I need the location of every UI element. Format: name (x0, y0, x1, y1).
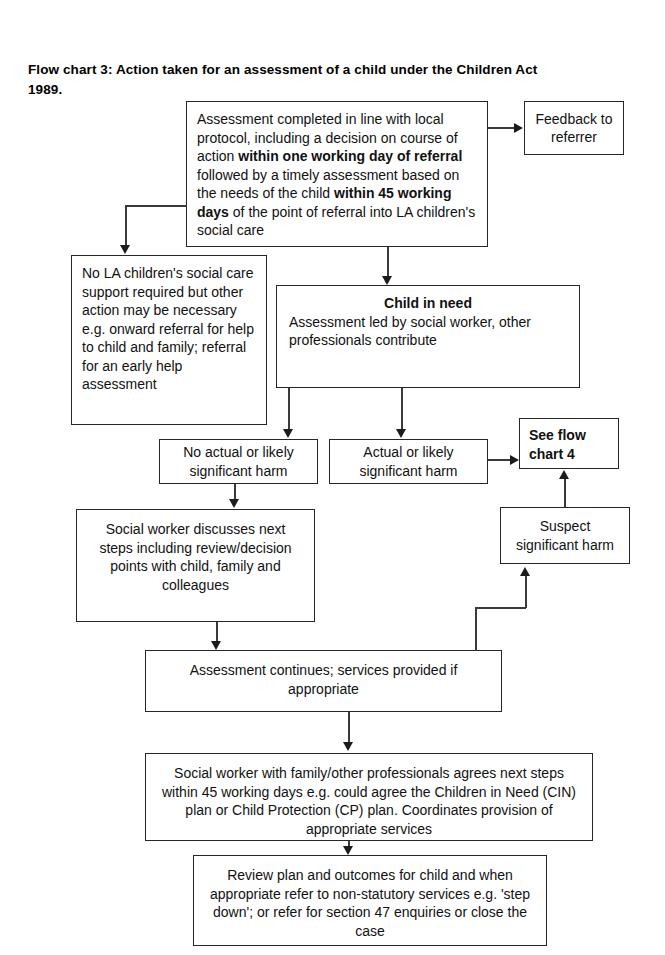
node-suspect-harm-text: Suspect significant harm (509, 517, 621, 554)
connector-assessment-to-cin-arrowhead (382, 276, 392, 285)
connector-cin-to-no-actual-harm-arrowhead (283, 429, 293, 438)
node-child-in-need-text: Assessment led by social worker, other p… (289, 313, 567, 350)
connector-suspect-to-flowchart4-arrowhead (559, 470, 569, 479)
connector-assessment-to-feedback-arrowhead (514, 123, 523, 133)
node-assessment-completed[interactable]: Assessment completed in line with local … (186, 101, 488, 247)
node-no-la-support[interactable]: No LA children's social care support req… (71, 255, 267, 425)
node-no-actual-harm[interactable]: No actual or likely significant harm (159, 439, 318, 484)
node-child-in-need-heading: Child in need (289, 294, 567, 313)
node-sw-discusses-text: Social worker discusses next steps inclu… (89, 520, 302, 594)
connector-sw-discusses-to-assessment-continues-vertical (216, 622, 218, 642)
node-assessment-continues[interactable]: Assessment continues; services provided … (145, 650, 502, 712)
node-see-flow-chart-4-text: See flow chart 4 (529, 426, 609, 463)
connector-actual-harm-to-flowchart4-line (488, 459, 511, 461)
node-sw-discusses[interactable]: Social worker discusses next steps inclu… (76, 509, 315, 622)
node-actual-harm-text: Actual or likely significant harm (338, 443, 479, 480)
connector-assessment-to-nola-arrowhead (120, 245, 130, 254)
page-title-line1: Flow chart 3: Action taken for an assess… (28, 62, 537, 77)
connector-cin-to-no-actual-harm-vertical (288, 388, 290, 430)
connector-assessment-to-cin-vertical (387, 247, 389, 278)
page-title: Flow chart 3: Action taken for an assess… (28, 60, 628, 100)
node-actual-harm[interactable]: Actual or likely significant harm (329, 439, 488, 484)
connector-assessment-continues-to-suspect-vertical-lower (475, 607, 477, 651)
node-child-in-need[interactable]: Child in need Assessment led by social w… (276, 285, 580, 388)
connector-cin-to-actual-harm-vertical (401, 388, 403, 430)
node-review-plan[interactable]: Review plan and outcomes for child and w… (193, 855, 547, 946)
node-feedback-to-referrer[interactable]: Feedback to referrer (524, 101, 624, 155)
page-title-line2: 1989. (28, 82, 62, 97)
node-no-actual-harm-text: No actual or likely significant harm (168, 443, 309, 480)
node-sw-agrees-next-steps-text: Social worker with family/other professi… (160, 764, 578, 838)
connector-cin-to-actual-harm-arrowhead (396, 429, 406, 438)
assessment-seg5: of the point of referral into LA childre… (197, 204, 475, 239)
connector-assessment-continues-to-suspect-horizontal (475, 607, 526, 609)
assessment-seg2-bold: within one working day of referral (238, 148, 462, 164)
node-suspect-harm[interactable]: Suspect significant harm (500, 507, 630, 564)
connector-assessment-continues-to-sw-agrees-vertical (348, 712, 350, 743)
connector-no-actual-harm-to-sw-discusses-arrowhead (229, 499, 239, 508)
node-assessment-continues-text: Assessment continues; services provided … (160, 661, 487, 698)
connector-assessment-continues-to-suspect-arrowhead (520, 567, 530, 576)
node-review-plan-text: Review plan and outcomes for child and w… (208, 866, 532, 940)
flowchart-page: Flow chart 3: Action taken for an assess… (0, 0, 665, 955)
connector-assessment-to-nola-horizontal (125, 205, 187, 207)
connector-actual-harm-to-flowchart4-arrowhead (510, 455, 519, 465)
node-see-flow-chart-4[interactable]: See flow chart 4 (519, 418, 619, 469)
connector-sw-discusses-to-assessment-continues-arrowhead (211, 641, 221, 650)
connector-sw-agrees-to-review-plan-arrowhead (343, 846, 353, 855)
connector-suspect-to-flowchart4-vertical (564, 478, 566, 507)
connector-assessment-continues-to-suspect-vertical-upper (525, 576, 527, 608)
node-assessment-completed-text: Assessment completed in line with local … (197, 110, 477, 240)
connector-assessment-to-nola-vertical (125, 205, 127, 247)
node-no-la-support-text: No LA children's social care support req… (82, 264, 256, 394)
node-sw-agrees-next-steps[interactable]: Social worker with family/other professi… (145, 753, 593, 841)
connector-no-actual-harm-to-sw-discusses-vertical (234, 484, 236, 500)
node-feedback-to-referrer-text: Feedback to referrer (533, 110, 615, 147)
connector-assessment-to-feedback-line (488, 127, 515, 129)
connector-assessment-continues-to-sw-agrees-arrowhead (343, 742, 353, 751)
